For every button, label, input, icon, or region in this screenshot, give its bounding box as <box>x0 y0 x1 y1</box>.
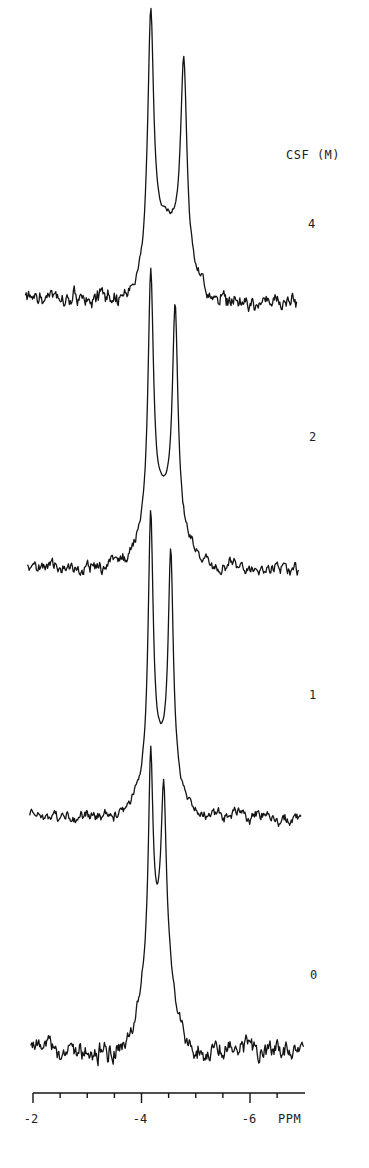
series-label-4: 4 <box>308 217 316 231</box>
legend-title: CSF (M) <box>286 148 340 162</box>
spectrum-trace-4M <box>25 9 296 312</box>
x-axis <box>33 1093 305 1103</box>
spectra-traces <box>25 9 303 1066</box>
series-label-2: 2 <box>309 430 317 444</box>
tick-label-minus-2: -2 <box>24 1112 38 1126</box>
series-label-1: 1 <box>309 688 317 702</box>
spectrum-trace-0M <box>31 746 304 1066</box>
spectrum-trace-2M <box>28 268 299 575</box>
axis-unit-label: PPM <box>278 1112 301 1126</box>
tick-label-minus-4: -4 <box>133 1112 147 1126</box>
series-label-0: 0 <box>310 968 318 982</box>
spectrum-trace-1M <box>30 511 301 827</box>
tick-label-minus-6: -6 <box>242 1112 256 1126</box>
nmr-stacked-spectra-figure: CSF (M) 4 2 1 0 -2 -4 -6 PPM <box>0 0 369 1168</box>
spectra-plot <box>0 0 369 1168</box>
